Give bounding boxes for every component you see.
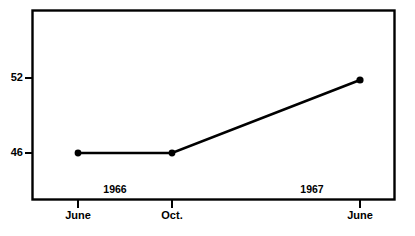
x-tick-label-june-1967: June bbox=[347, 209, 373, 221]
plot-frame bbox=[33, 11, 395, 200]
data-point-marker bbox=[356, 76, 363, 83]
chart-canvas: 52 46 June Oct. June 1966 1967 bbox=[0, 0, 415, 236]
x-tick-label-oct-1966: Oct. bbox=[161, 209, 182, 221]
line-chart: 52 46 June Oct. June 1966 1967 bbox=[0, 0, 415, 236]
group-label-1967: 1967 bbox=[300, 183, 324, 195]
x-tick-label-june-1966: June bbox=[65, 209, 91, 221]
data-point-marker bbox=[75, 150, 82, 157]
group-label-1966: 1966 bbox=[103, 183, 127, 195]
y-tick-label-52: 52 bbox=[11, 71, 23, 83]
y-tick-label-46: 46 bbox=[11, 146, 23, 158]
data-point-marker bbox=[169, 150, 176, 157]
